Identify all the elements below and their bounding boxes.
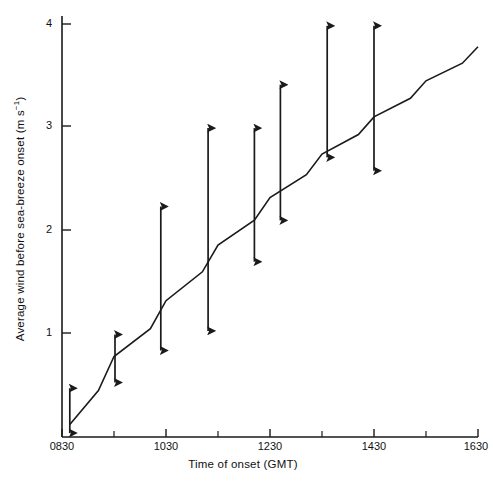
x-axis-major-ticks (62, 429, 478, 437)
y-tick-label-4: 4 (30, 17, 52, 29)
x-tick-label-1230: 1230 (247, 440, 293, 452)
x-tick-label-0830: 0830 (39, 440, 85, 452)
y-axis-title-suffix: ) (14, 97, 26, 101)
x-axis-title: Time of onset (GMT) (0, 458, 486, 470)
y-tick-label-2: 2 (30, 223, 52, 235)
trend-curve (70, 47, 478, 425)
y-tick-label-3: 3 (30, 119, 52, 131)
y-axis-title-text: Average wind before sea-breeze onset (m … (14, 110, 26, 341)
y-axis-title: Average wind before sea-breeze onset (m … (12, 54, 26, 384)
x-tick-label-1030: 1030 (143, 440, 189, 452)
x-tick-label-1430: 1430 (351, 440, 397, 452)
y-axis-ticks (62, 24, 71, 333)
spread-arrows (70, 26, 374, 433)
y-axis-title-exponent: −1 (12, 101, 21, 111)
y-tick-label-1: 1 (30, 326, 52, 338)
x-tick-label-1630: 1630 (453, 440, 493, 452)
